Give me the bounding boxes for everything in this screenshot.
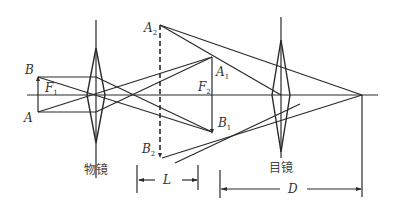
label-L: L: [162, 173, 171, 187]
label-F1: F1: [44, 81, 58, 97]
ray: [38, 57, 212, 112]
ray: [162, 95, 362, 158]
label-objective: 物镜: [84, 162, 108, 177]
label-D: D: [287, 182, 298, 196]
label-A: A: [23, 111, 33, 125]
microscope-diagram: B A F1 A2 A1 F2 B1 B2 L D 物镜 目镜: [0, 0, 397, 208]
eyepiece-lens: [272, 17, 290, 158]
object-arrow: [36, 76, 40, 112]
label-eyepiece: 目镜: [269, 160, 293, 175]
objective-lens: [87, 20, 105, 178]
ray: [96, 57, 212, 112]
virtual-image: [158, 25, 162, 158]
ray: [160, 25, 281, 95]
label-B1: B1: [217, 116, 231, 132]
ray: [38, 77, 212, 132]
label-F2: F2: [197, 80, 211, 96]
label-A2: A2: [143, 21, 157, 37]
ray: [160, 25, 362, 95]
label-A1: A1: [215, 65, 229, 81]
ray: [96, 77, 212, 132]
label-B: B: [24, 63, 34, 77]
label-B2: B2: [141, 142, 155, 158]
